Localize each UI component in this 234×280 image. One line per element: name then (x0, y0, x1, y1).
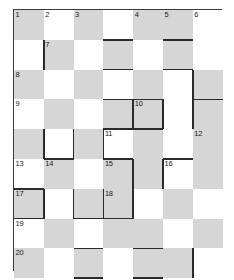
cell-number: 16 (165, 159, 173, 168)
cell-number: 8 (16, 70, 20, 79)
grid-cell[interactable]: 3 (74, 10, 104, 40)
grid-cell[interactable]: 2 (44, 10, 74, 40)
grid-cell[interactable] (193, 159, 223, 189)
grid-cell[interactable] (74, 70, 104, 100)
grid-cell[interactable] (133, 70, 163, 100)
grid-cell[interactable]: 1 (14, 10, 44, 40)
crossword-puzzle: 1234567891011121314151617181920 (0, 0, 234, 280)
word-boundary-edge (74, 277, 104, 279)
cell-number: 17 (16, 189, 24, 198)
grid-cell[interactable] (163, 40, 193, 70)
cell-number: 10 (135, 99, 143, 108)
grid-cell[interactable]: 17 (14, 189, 44, 219)
word-boundary-edge (163, 158, 193, 160)
word-boundary-edge (103, 99, 133, 101)
grid-cell[interactable] (163, 70, 193, 100)
grid-cell[interactable]: 15 (103, 159, 133, 189)
grid-cell[interactable] (163, 189, 193, 219)
cell-number: 5 (165, 10, 169, 19)
grid-cell[interactable]: 5 (163, 10, 193, 40)
grid-cell[interactable]: 4 (133, 10, 163, 40)
cell-number: 7 (45, 40, 49, 49)
grid-cell[interactable]: 20 (14, 248, 44, 278)
word-boundary-edge (14, 218, 44, 220)
grid-cell[interactable] (103, 40, 133, 70)
grid-cell[interactable] (74, 99, 104, 129)
grid-cell[interactable] (74, 40, 104, 70)
cell-number: 3 (75, 10, 79, 19)
word-boundary-edge (74, 248, 104, 250)
grid-cell[interactable]: 9 (14, 99, 44, 129)
grid-cell[interactable] (14, 40, 44, 70)
grid-cell[interactable] (163, 99, 193, 129)
grid-cell[interactable] (193, 248, 223, 278)
word-boundary-edge (192, 248, 194, 278)
grid-cell[interactable] (133, 248, 163, 278)
cell-number: 19 (16, 219, 24, 228)
cell-number: 9 (16, 99, 20, 108)
word-boundary-edge (132, 189, 134, 219)
grid-cell[interactable]: 8 (14, 70, 44, 100)
word-boundary-edge (162, 99, 164, 129)
grid-cell[interactable] (103, 219, 133, 249)
word-boundary-edge (103, 129, 105, 159)
grid-cell[interactable]: 19 (14, 219, 44, 249)
grid-cell[interactable]: 18 (103, 189, 133, 219)
grid-cell[interactable] (44, 189, 74, 219)
word-boundary-edge (74, 218, 104, 220)
grid-cell[interactable] (163, 129, 193, 159)
word-boundary-edge (103, 158, 133, 160)
grid-cell[interactable] (193, 219, 223, 249)
word-boundary-edge (44, 158, 74, 160)
cell-number: 12 (194, 129, 202, 138)
grid-cell[interactable]: 14 (44, 159, 74, 189)
cell-number: 14 (45, 159, 53, 168)
grid-cell[interactable]: 6 (193, 10, 223, 40)
grid-cell[interactable] (163, 219, 193, 249)
grid-cell[interactable] (193, 189, 223, 219)
grid-cell[interactable] (74, 248, 104, 278)
grid-cell[interactable] (133, 159, 163, 189)
grid-cell[interactable] (133, 129, 163, 159)
grid-cell[interactable] (193, 40, 223, 70)
word-boundary-edge (133, 99, 163, 101)
grid-cell[interactable] (44, 219, 74, 249)
grid-cell[interactable] (133, 40, 163, 70)
grid-cell[interactable]: 7 (44, 40, 74, 70)
grid-cell[interactable] (103, 10, 133, 40)
grid-cell[interactable] (103, 248, 133, 278)
grid-cell[interactable] (74, 129, 104, 159)
cell-number: 15 (105, 159, 113, 168)
grid-cell[interactable] (133, 189, 163, 219)
word-boundary-edge (14, 188, 44, 190)
grid-cell[interactable] (74, 159, 104, 189)
grid-cell[interactable] (163, 248, 193, 278)
word-boundary-edge (103, 39, 133, 41)
word-boundary-edge (133, 248, 163, 250)
grid-cell[interactable] (74, 189, 104, 219)
grid-cell[interactable] (193, 70, 223, 100)
word-boundary-edge (133, 128, 163, 130)
cell-number: 11 (105, 129, 112, 138)
grid-cell[interactable] (103, 99, 133, 129)
grid-cell[interactable] (44, 99, 74, 129)
word-boundary-edge (103, 128, 133, 130)
grid-cell[interactable]: 10 (133, 99, 163, 129)
word-boundary-edge (163, 69, 193, 71)
grid-cell[interactable] (44, 248, 74, 278)
crossword-grid[interactable]: 1234567891011121314151617181920 (13, 9, 222, 271)
word-boundary-edge (192, 70, 194, 100)
grid-cell[interactable]: 13 (14, 159, 44, 189)
grid-cell[interactable] (44, 70, 74, 100)
grid-cell[interactable] (44, 129, 74, 159)
grid-cell[interactable] (193, 99, 223, 129)
word-boundary-edge (73, 189, 75, 219)
word-boundary-edge (133, 277, 163, 279)
grid-cell[interactable] (103, 70, 133, 100)
grid-cell[interactable] (14, 129, 44, 159)
grid-cell[interactable] (133, 219, 163, 249)
grid-cell[interactable]: 11 (103, 129, 133, 159)
grid-cell[interactable]: 12 (193, 129, 223, 159)
grid-cell[interactable] (74, 219, 104, 249)
grid-cell[interactable]: 16 (163, 159, 193, 189)
